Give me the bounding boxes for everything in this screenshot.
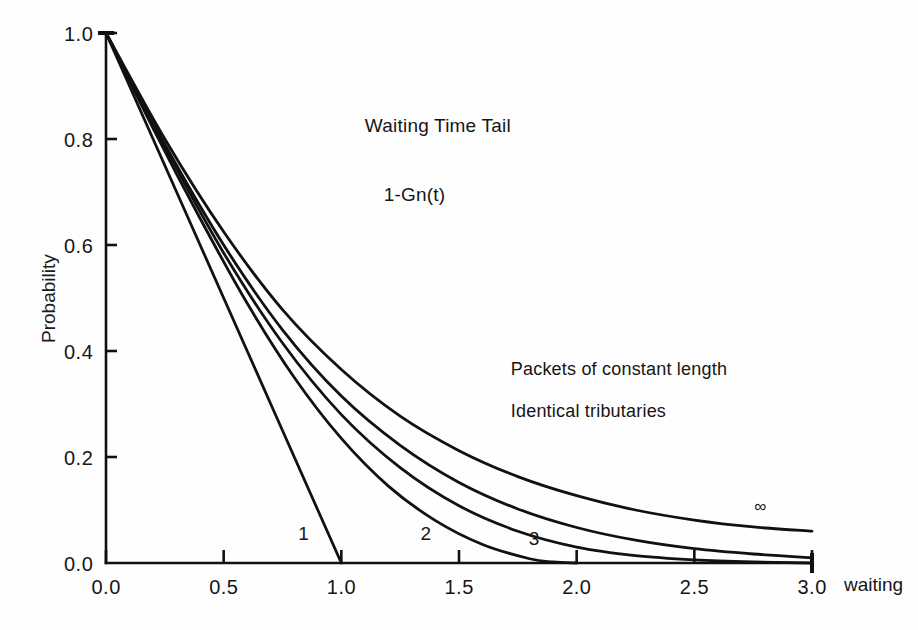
x-tick-label: 1.0	[327, 576, 356, 599]
y-tick-label: 0.4	[64, 341, 93, 364]
chart-annotation-1: Packets of constant length	[511, 359, 727, 380]
y-tick-label: 1.0	[64, 23, 93, 46]
y-tick-label: 0.8	[64, 129, 93, 152]
x-tick-label: 1.5	[445, 576, 474, 599]
x-tick-label: 0.5	[209, 576, 238, 599]
curve-infinity	[106, 33, 812, 531]
chart-annotation-2: Identical tributaries	[511, 401, 666, 422]
y-tick-label: 0.0	[64, 553, 93, 576]
chart-canvas: 0.00.20.40.60.81.00.00.51.01.52.02.53.01…	[0, 0, 918, 630]
y-tick-label: 0.2	[64, 447, 93, 470]
y-axis-title: Probability	[38, 254, 60, 343]
chart-title: Waiting Time Tail	[365, 115, 511, 137]
x-axis-title: waiting	[844, 574, 903, 596]
x-tick-label: 2.0	[562, 576, 591, 599]
curve-label-3: 3	[529, 528, 540, 550]
y-tick-label: 0.6	[64, 235, 93, 258]
x-tick-label: 0.0	[92, 576, 121, 599]
x-tick-label: 2.5	[680, 576, 709, 599]
curve-label-infinity: ∞	[754, 497, 766, 517]
line-chart-svg	[0, 0, 918, 630]
curve-2	[106, 33, 577, 563]
curve-1	[106, 33, 341, 563]
curve-5	[106, 33, 812, 558]
x-tick-label: 3.0	[798, 576, 827, 599]
chart-subtitle: 1-Gn(t)	[384, 184, 446, 206]
curve-label-1: 1	[298, 523, 309, 545]
curve-label-2: 2	[421, 523, 432, 545]
